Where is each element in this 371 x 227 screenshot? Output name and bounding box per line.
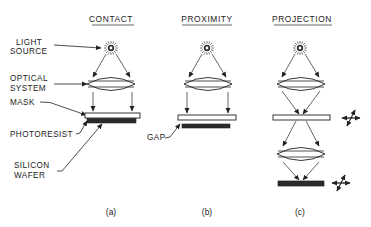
label-source: SOURCE [10, 47, 48, 56]
label-mask: MASK [10, 98, 35, 107]
panel-contact [85, 41, 140, 123]
panel-title-contact: CONTACT [89, 14, 133, 24]
panel-projection [273, 41, 360, 191]
mask-plate [273, 115, 330, 120]
wafer-plate [278, 181, 324, 186]
lithography-diagram: CONTACT PROXIMITY PROJECTION LIGHT SOURC… [0, 0, 371, 227]
panel-title-proximity: PROXIMITY [181, 14, 232, 24]
caption-c: (c) [295, 207, 305, 217]
lens-icon [87, 78, 135, 91]
label-optical: OPTICAL [10, 74, 48, 83]
wafer-plate [182, 124, 230, 128]
panel-proximity [178, 41, 236, 128]
light-source-icon [104, 41, 118, 55]
label-system: SYSTEM [10, 84, 46, 93]
label-gap: GAP [147, 133, 166, 142]
label-wafer: WAFER [14, 171, 45, 180]
xy-translation-icon [332, 175, 350, 191]
lens-icon [184, 78, 232, 91]
caption-a: (a) [106, 207, 117, 217]
label-light: LIGHT [16, 38, 42, 47]
light-source-icon [293, 41, 307, 55]
mask-plate [178, 115, 236, 120]
wafer-plate [87, 119, 136, 124]
label-silicon: SILICON [14, 161, 50, 170]
mask-plate [85, 113, 140, 118]
xy-translation-icon [342, 110, 360, 126]
caption-b: (b) [202, 207, 213, 217]
panel-title-projection: PROJECTION [272, 14, 332, 24]
lens-icon [277, 148, 325, 161]
light-source-icon [200, 41, 214, 55]
label-photoresist: PHOTORESIST [10, 130, 73, 139]
lens-icon [277, 78, 325, 91]
